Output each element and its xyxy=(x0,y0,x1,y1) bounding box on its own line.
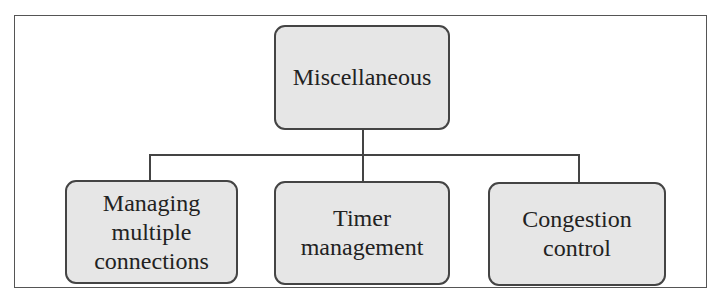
root-node-label: Miscellaneous xyxy=(293,63,432,92)
connector-horizontal xyxy=(149,154,580,156)
child-node-2: Timer management xyxy=(274,181,450,285)
root-node: Miscellaneous xyxy=(274,25,450,130)
connector-child-3 xyxy=(578,154,580,183)
child-node-3-label: Congestion control xyxy=(512,205,642,263)
connector-root-stem xyxy=(362,129,364,156)
child-node-1: Managing multiple connections xyxy=(65,180,238,284)
connector-child-1 xyxy=(149,154,151,181)
connector-child-2 xyxy=(362,154,364,181)
child-node-1-label: Managing multiple connections xyxy=(77,189,227,276)
child-node-2-label: Timer management xyxy=(287,204,437,262)
child-node-3: Congestion control xyxy=(488,182,666,286)
